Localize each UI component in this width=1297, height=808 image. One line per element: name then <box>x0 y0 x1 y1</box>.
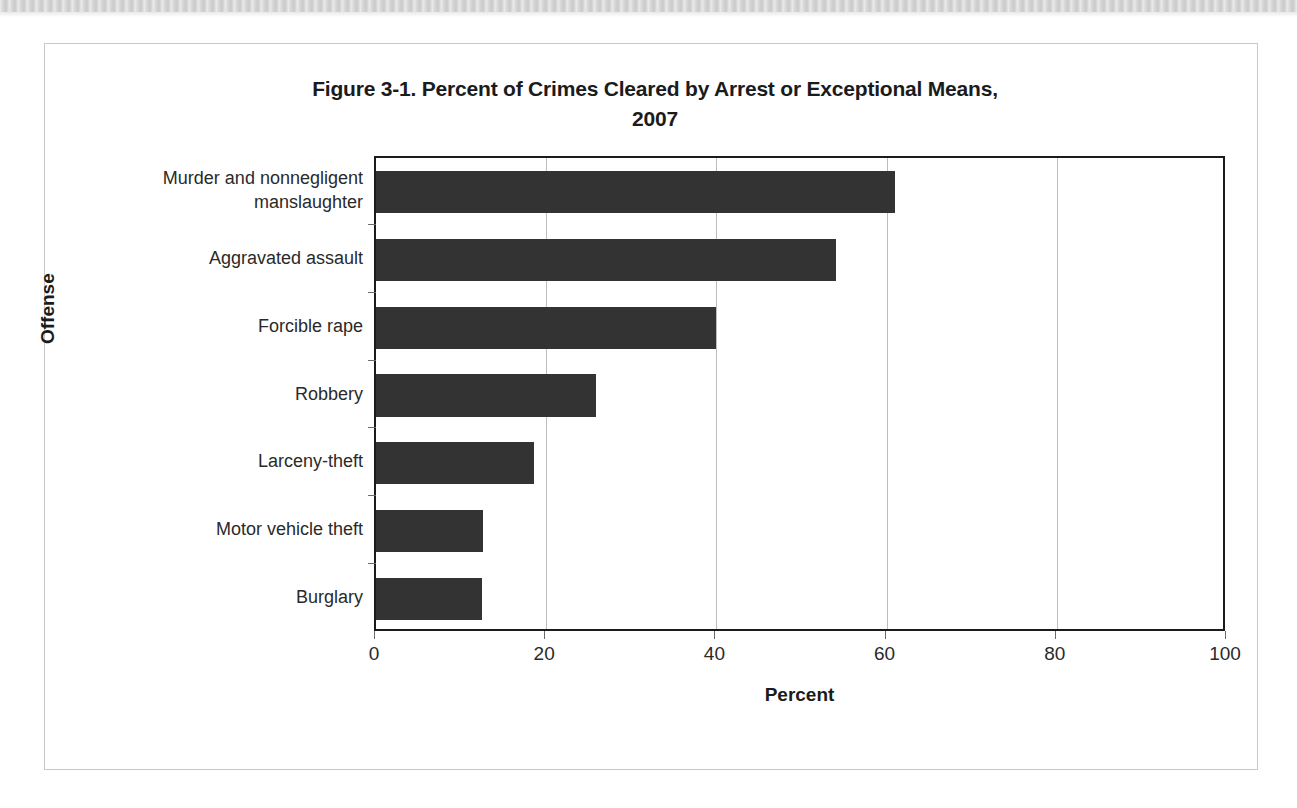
x-axis-tick <box>374 631 375 639</box>
y-axis-category-label: Robbery <box>45 382 363 406</box>
y-axis-tick <box>368 427 376 428</box>
bar-series <box>376 158 1223 629</box>
y-axis-category-label-line: Robbery <box>45 382 363 406</box>
bar <box>376 307 716 349</box>
chart-title-line-2: 2007 <box>175 104 1135 134</box>
x-axis-tick-label: 60 <box>850 643 920 665</box>
y-axis-category-label: Murder and nonnegligentmanslaughter <box>45 166 363 214</box>
bar <box>376 442 534 484</box>
x-axis-tick <box>714 631 715 639</box>
y-axis-tick <box>368 292 376 293</box>
y-axis-category-label-line: Burglary <box>45 585 363 609</box>
scan-artifact-fade <box>0 12 1297 17</box>
y-axis-tick <box>368 224 376 225</box>
y-axis-tick <box>368 495 376 496</box>
x-axis-tick-label: 80 <box>1020 643 1090 665</box>
scan-artifact-strip <box>0 0 1297 12</box>
y-axis-category-label-line: Larceny-theft <box>45 449 363 473</box>
y-axis-tick <box>368 563 376 564</box>
y-axis-category-label-line: Forcible rape <box>45 314 363 338</box>
x-axis-tick <box>885 631 886 639</box>
bar <box>376 578 482 620</box>
chart-title-line-1: Figure 3-1. Percent of Crimes Cleared by… <box>175 74 1135 104</box>
plot-area <box>374 156 1225 631</box>
y-axis-category-label-line: Aggravated assault <box>45 246 363 270</box>
y-axis-category-label-line: Motor vehicle theft <box>45 517 363 541</box>
bar <box>376 510 483 552</box>
y-axis-category-label: Aggravated assault <box>45 246 363 270</box>
x-axis-title: Percent <box>374 684 1225 706</box>
x-axis-tick-label: 0 <box>339 643 409 665</box>
y-axis-category-label: Burglary <box>45 585 363 609</box>
x-axis-tick <box>1225 631 1226 639</box>
y-axis-category-label: Forcible rape <box>45 314 363 338</box>
x-axis-tick-label: 40 <box>679 643 749 665</box>
y-axis-category-label-line: Murder and nonnegligent <box>45 166 363 190</box>
y-axis-category-label: Larceny-theft <box>45 449 363 473</box>
x-axis-tick <box>544 631 545 639</box>
figure-frame: Figure 3-1. Percent of Crimes Cleared by… <box>44 43 1258 770</box>
y-axis-category-label: Motor vehicle theft <box>45 517 363 541</box>
x-axis-tick-label: 20 <box>509 643 579 665</box>
bar <box>376 239 836 281</box>
x-axis-tick-label: 100 <box>1190 643 1260 665</box>
chart-title: Figure 3-1. Percent of Crimes Cleared by… <box>175 74 1135 134</box>
bar <box>376 374 596 416</box>
y-axis-category-label-line: manslaughter <box>45 190 363 214</box>
bar <box>376 171 895 213</box>
y-axis-tick <box>368 360 376 361</box>
x-axis-tick <box>1055 631 1056 639</box>
